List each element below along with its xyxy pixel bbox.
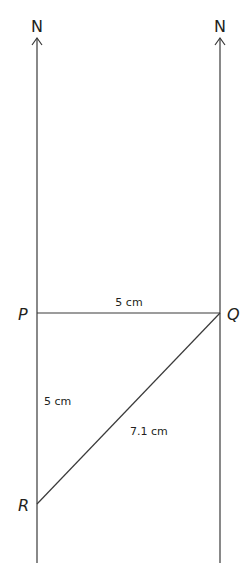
right-north-line bbox=[215, 38, 225, 563]
segment-qr bbox=[37, 313, 220, 504]
bearing-diagram: N N P Q R 5 cm 5 cm 7.1 cm bbox=[0, 0, 251, 588]
north-label-right: N bbox=[214, 17, 226, 36]
measurement-pq: 5 cm bbox=[115, 296, 142, 309]
point-label-p: P bbox=[18, 305, 28, 324]
point-label-r: R bbox=[18, 496, 29, 515]
point-label-q: Q bbox=[227, 305, 240, 324]
left-north-line bbox=[32, 38, 42, 563]
measurement-qr: 7.1 cm bbox=[130, 425, 168, 438]
north-label-left: N bbox=[31, 17, 43, 36]
measurement-pr: 5 cm bbox=[44, 395, 71, 408]
